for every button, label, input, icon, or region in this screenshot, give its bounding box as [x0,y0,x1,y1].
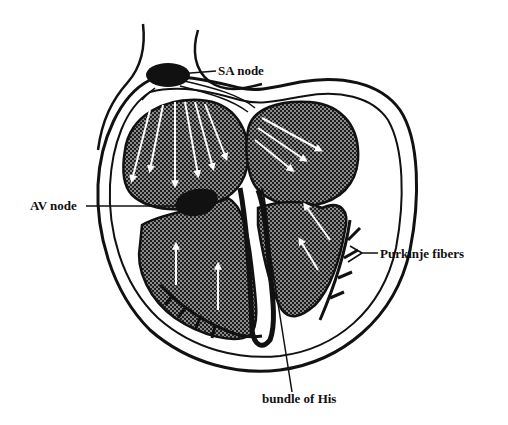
bundle-of-his-label: bundle of His [262,392,336,405]
sa-node-label: SA node [218,64,264,77]
purkinje-fibers-label: Purkinje fibers [380,247,464,260]
av-node-label: AV node [30,199,77,212]
sa-node [146,63,190,87]
